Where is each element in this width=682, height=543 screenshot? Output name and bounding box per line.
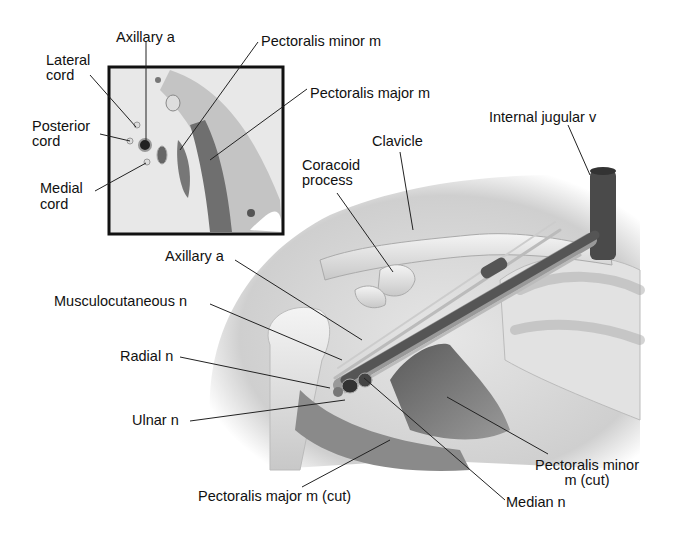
- label-medial-cord-1: Medial: [40, 180, 83, 196]
- label-median: Median n: [506, 494, 566, 510]
- label-pectoralis-minor-cut-2: m (cut): [527, 472, 647, 488]
- label-internal-jugular: Internal jugular v: [489, 109, 596, 125]
- label-lateral-cord-1: Lateral: [46, 52, 90, 68]
- internal-jugular-vein: [590, 167, 616, 260]
- label-pectoralis-major: Pectoralis major m: [310, 85, 430, 101]
- label-clavicle: Clavicle: [372, 133, 423, 149]
- label-pectoralis-minor: Pectoralis minor m: [261, 33, 381, 49]
- label-posterior-cord-2: cord: [32, 133, 60, 149]
- label-coracoid-1: Coracoid: [302, 157, 360, 173]
- label-inset-axillary-a: Axillary a: [116, 29, 175, 45]
- label-radial: Radial n: [120, 348, 173, 364]
- label-pectoralis-major-cut: Pectoralis major m (cut): [198, 488, 351, 504]
- label-ulnar: Ulnar n: [132, 412, 179, 428]
- label-pectoralis-minor-cut-1: Pectoralis minor: [527, 457, 647, 473]
- label-lateral-cord-2: cord: [46, 67, 74, 83]
- label-posterior-cord-1: Posterior: [32, 118, 90, 134]
- label-medial-cord-2: cord: [40, 196, 68, 212]
- label-musculocutaneous: Musculocutaneous n: [54, 293, 187, 309]
- label-axillary-a: Axillary a: [165, 248, 224, 264]
- inset-cross-section: [109, 67, 283, 234]
- label-coracoid-2: process: [302, 172, 353, 188]
